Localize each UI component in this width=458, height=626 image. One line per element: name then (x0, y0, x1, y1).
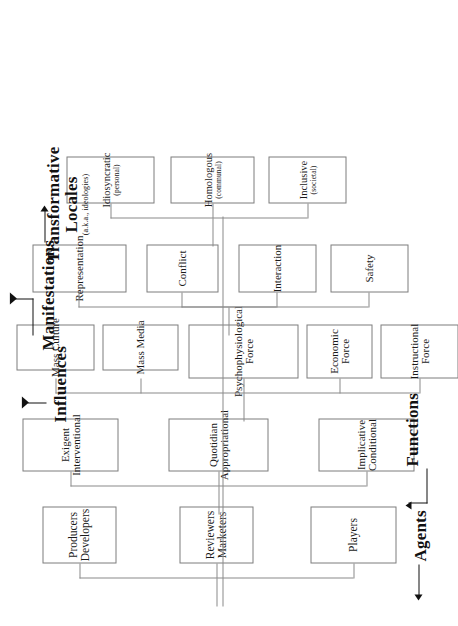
node-line1: Idiosyncratic (101, 152, 112, 207)
bracket-stub (353, 563, 354, 578)
bracket-spine (110, 217, 307, 218)
bracket-mid (181, 306, 276, 307)
agents-arrow (414, 564, 423, 600)
node-sublabel: (societal) (309, 165, 317, 194)
bracket-stub (70, 471, 71, 486)
bracket-stub (78, 292, 79, 307)
bracket-stub (181, 292, 182, 307)
group-label-line2: Locales (61, 176, 80, 232)
bracket-stub (140, 378, 141, 393)
bracket-stub (216, 563, 217, 578)
bracket-stub (276, 292, 277, 307)
bracket-trunk (216, 578, 217, 606)
bracket-stub (419, 378, 420, 393)
bracket-trunk (228, 307, 229, 335)
group-label-influences: Influences (50, 345, 70, 422)
group-label-text: Influences (50, 345, 69, 422)
node-sublabel: (personal) (112, 164, 120, 195)
node-line1: Inclusive (298, 160, 309, 199)
bracket-trunk (243, 393, 244, 421)
group-label-sublabel: (a.k.a., ideologies) (81, 144, 89, 264)
functions-arrow (404, 468, 428, 508)
bracket-stub (339, 378, 340, 393)
bracket-stub (368, 292, 369, 307)
group-transformative-locales: Idiosyncratic (personal) Homologous (com… (0, 126, 439, 266)
bracket-spine (55, 392, 419, 393)
bracket-stub (243, 378, 244, 393)
main-spine (222, 216, 223, 606)
bracket-stub (307, 203, 308, 218)
bracket-stub (366, 471, 367, 486)
node-inclusive[interactable]: Inclusive (societal) (268, 156, 346, 203)
group-label-transformative-locales: Transformative Locales (a.k.a., ideologi… (44, 144, 89, 264)
node-line1: Homologous (203, 152, 214, 206)
node-sublabel: (communal) (214, 161, 222, 199)
bracket-stub (79, 563, 80, 578)
bracket-stub (218, 471, 219, 486)
influences-arrow (20, 396, 46, 408)
bracket-trunk (212, 218, 213, 246)
manifestations-arrow (8, 298, 34, 340)
node-homologous[interactable]: Homologous (communal) (170, 156, 254, 203)
bracket-stub (212, 203, 213, 218)
bracket-stub (110, 203, 111, 218)
bracket-trunk (218, 486, 219, 514)
group-label-line1: Transformative (43, 146, 62, 262)
